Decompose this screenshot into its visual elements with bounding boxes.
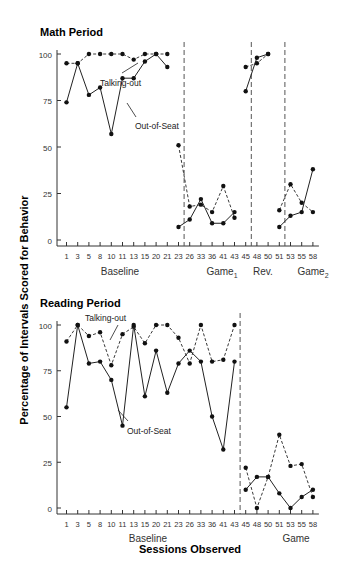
x-tick-label: 53 [286,520,294,529]
data-point [232,215,236,219]
x-tick-label: 45 [242,252,250,261]
x-tick-label: 3 [76,252,80,261]
data-point [154,348,158,352]
data-point [277,491,281,495]
data-point [98,52,102,56]
x-tick-label: 58 [309,520,317,529]
data-point [288,506,292,510]
x-tick-label: 43 [230,252,238,261]
data-point [244,466,248,470]
data-point [266,475,270,479]
y-tick-label: 0 [48,237,53,246]
x-tick-label: 48 [253,520,261,529]
x-tick-label: 5 [87,520,91,529]
phase-label: Game2 [297,266,328,279]
x-tick-label: 36 [208,252,216,261]
data-point [232,210,236,214]
y-tick-label: 25 [43,190,52,199]
data-point [165,323,169,327]
data-point [64,339,68,343]
annotation-arrow [127,103,136,117]
data-point [311,495,315,499]
x-tick-label: 43 [230,520,238,529]
data-point [288,214,292,218]
data-point [188,204,192,208]
data-point [64,100,68,104]
talking-out-line [67,325,235,365]
data-point [300,495,304,499]
out-of-seat-annotation: Out-of-Seat [135,121,180,131]
data-point [76,61,80,65]
data-point [132,323,136,327]
data-point [120,332,124,336]
y-tick-label: 75 [43,97,52,106]
phase-label: Rev. [253,266,273,277]
x-tick-label: 58 [309,252,317,261]
talking-out-annotation: Talking-out [85,313,127,323]
x-tick-label: 23 [174,252,182,261]
data-point [210,359,214,363]
data-point [143,59,147,63]
phase-label: Baseline [129,533,168,544]
data-point [277,433,281,437]
x-tick-label: 1 [64,520,68,529]
x-tick-label: 33 [197,252,205,261]
data-point [87,93,91,97]
data-point [176,361,180,365]
plots-group: 0255075100135810111315202123263336414345… [39,42,329,544]
x-tick-label: 33 [197,520,205,529]
data-point [288,182,292,186]
data-point [109,363,113,367]
phase-label: Baseline [101,266,140,277]
data-point [165,52,169,56]
data-point [143,341,147,345]
x-tick-label: 10 [107,520,115,529]
x-tick-label: 51 [275,252,283,261]
data-point [300,210,304,214]
data-point [165,65,169,69]
data-point [64,61,68,65]
out-of-seat-line [179,199,235,227]
data-point [154,52,158,56]
data-point [98,330,102,334]
data-point [244,89,248,93]
data-point [232,359,236,363]
data-point [188,361,192,365]
data-point [176,225,180,229]
data-point [154,323,158,327]
x-tick-label: 3 [76,520,80,529]
talking-out-annotation: Talking-out [100,78,142,88]
x-tick-label: 55 [298,520,306,529]
data-point [143,52,147,56]
data-point [277,208,281,212]
data-point [109,378,113,382]
x-tick-label: 55 [298,252,306,261]
data-point [232,323,236,327]
x-tick-label: 48 [253,252,261,261]
y-tick-label: 50 [43,413,52,422]
y-tick-label: 50 [43,144,52,153]
data-point [277,225,281,229]
data-point [255,475,259,479]
data-point [109,52,113,56]
x-tick-label: 26 [186,520,194,529]
annotation-arrow [110,325,118,340]
data-point [87,334,91,338]
data-point [210,414,214,418]
data-point [221,221,225,225]
data-point [311,488,315,492]
data-point [120,52,124,56]
x-tick-label: 53 [286,252,294,261]
data-point [199,323,203,327]
data-point [199,359,203,363]
x-tick-label: 1 [64,252,68,261]
x-tick-label: 45 [242,520,250,529]
data-point [244,65,248,69]
phase-label: Game1 [206,266,237,279]
data-point [120,423,124,427]
x-tick-label: 41 [219,520,227,529]
y-tick-label: 75 [43,367,52,376]
x-tick-label: 23 [174,520,182,529]
out-of-seat-line [279,169,313,227]
data-point [221,184,225,188]
